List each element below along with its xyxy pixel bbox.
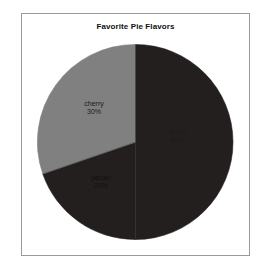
- pie-label-apple: apple 50%: [155, 128, 199, 144]
- pie-label-apple-name: apple: [155, 128, 199, 136]
- pie-chart: [21, 13, 250, 256]
- pie-label-cherry: cherry 30%: [72, 100, 116, 116]
- pie-label-pecan: pecan 20%: [79, 174, 123, 190]
- pie-label-pecan-name: pecan: [79, 174, 123, 182]
- pie-label-pecan-percent: 20%: [79, 182, 123, 190]
- figure-canvas: Favorite Pie Flavors apple 50% cherry 30…: [0, 0, 269, 272]
- pie-label-cherry-percent: 30%: [72, 108, 116, 116]
- pie-label-cherry-name: cherry: [72, 100, 116, 108]
- pie-label-apple-percent: 50%: [155, 136, 199, 144]
